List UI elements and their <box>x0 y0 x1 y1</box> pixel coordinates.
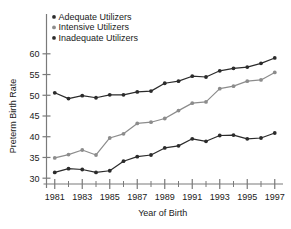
data-point-marker <box>245 65 249 69</box>
data-point-marker <box>108 136 112 140</box>
data-point-marker <box>94 96 98 100</box>
data-point-marker <box>53 91 57 95</box>
data-point-marker <box>135 155 139 159</box>
y-tick-label: 35 <box>29 153 39 163</box>
series-line <box>55 72 275 157</box>
x-axis-title: Year of Birth <box>138 208 187 218</box>
data-point-marker <box>204 75 208 79</box>
legend-label: Adequate Utilizers <box>59 12 133 22</box>
x-tick-label: 1983 <box>72 192 92 202</box>
series-line <box>55 133 275 172</box>
y-tick-label: 55 <box>29 70 39 80</box>
data-point-marker <box>149 153 153 157</box>
legend-marker <box>52 26 56 30</box>
x-tick-label: 1995 <box>237 192 257 202</box>
data-point-marker <box>135 122 139 126</box>
data-point-marker <box>218 87 222 91</box>
data-point-marker <box>177 109 181 113</box>
data-series-inadequate-utilizers <box>53 56 277 100</box>
data-point-marker <box>245 79 249 83</box>
data-point-marker <box>190 74 194 78</box>
data-point-marker <box>108 93 112 97</box>
x-tick-label: 1997 <box>265 192 285 202</box>
data-point-marker <box>232 133 236 137</box>
legend-label: Intensive Utilizers <box>59 22 130 32</box>
data-point-marker <box>67 153 71 157</box>
data-point-marker <box>53 156 57 160</box>
data-point-marker <box>190 137 194 141</box>
data-point-marker <box>190 101 194 105</box>
data-point-marker <box>67 167 71 171</box>
y-tick-label: 50 <box>29 91 39 101</box>
data-point-marker <box>135 90 139 94</box>
data-point-marker <box>245 137 249 141</box>
y-axis-ticks: 30354045505560 <box>29 49 50 183</box>
data-point-marker <box>122 159 126 163</box>
preterm-birth-rate-line-chart: 3035404550556019811983198519871989199119… <box>0 0 291 229</box>
y-tick-label: 30 <box>29 174 39 184</box>
data-point-marker <box>218 69 222 73</box>
data-point-marker <box>80 168 84 172</box>
y-tick-label: 60 <box>29 49 39 59</box>
data-point-marker <box>273 131 277 135</box>
data-point-marker <box>80 94 84 98</box>
data-point-marker <box>232 84 236 88</box>
x-tick-label: 1987 <box>127 192 147 202</box>
data-point-marker <box>149 89 153 93</box>
y-tick-label: 40 <box>29 132 39 142</box>
x-tick-label: 1985 <box>100 192 120 202</box>
data-point-marker <box>232 66 236 70</box>
x-tick-label: 1991 <box>182 192 202 202</box>
data-point-marker <box>259 61 263 65</box>
chart-legend: Adequate UtilizersIntensive UtilizersIna… <box>52 12 138 43</box>
legend-label: Inadequate Utilizers <box>59 33 139 43</box>
data-point-marker <box>259 136 263 140</box>
data-point-marker <box>94 153 98 157</box>
data-point-marker <box>163 117 167 121</box>
y-axis-title: Preterm Birth Rate <box>8 79 18 154</box>
data-point-marker <box>177 144 181 148</box>
data-point-marker <box>177 79 181 83</box>
data-point-marker <box>218 134 222 138</box>
data-point-marker <box>259 78 263 82</box>
data-point-marker <box>204 100 208 104</box>
chart-container: 3035404550556019811983198519871989199119… <box>0 0 291 229</box>
data-point-marker <box>163 146 167 150</box>
data-point-marker <box>80 148 84 152</box>
data-point-marker <box>122 93 126 97</box>
data-point-marker <box>122 132 126 136</box>
x-tick-label: 1989 <box>155 192 175 202</box>
x-axis-ticks: 198119831985198719891991199319951997 <box>45 179 285 202</box>
data-series-adequate-utilizers <box>53 131 277 174</box>
data-point-marker <box>149 120 153 124</box>
y-tick-label: 45 <box>29 111 39 121</box>
x-tick-label: 1993 <box>210 192 230 202</box>
series-line <box>55 58 275 99</box>
x-tick-label: 1981 <box>45 192 65 202</box>
data-point-marker <box>273 71 277 75</box>
legend-marker <box>52 36 56 40</box>
data-point-marker <box>273 56 277 60</box>
data-point-marker <box>108 169 112 173</box>
data-point-marker <box>204 139 208 143</box>
data-point-marker <box>163 81 167 85</box>
data-point-marker <box>67 97 71 101</box>
data-point-marker <box>94 170 98 174</box>
data-point-marker <box>53 170 57 174</box>
legend-marker <box>52 15 56 19</box>
